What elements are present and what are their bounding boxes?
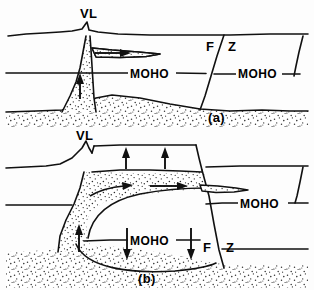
panel-a-asthenosphere xyxy=(6,95,308,127)
panel-a-fault-zone-2 xyxy=(294,36,303,76)
panel-b-vl-label: VL xyxy=(76,128,93,143)
panel-a-surface xyxy=(8,22,308,36)
panel-b-moho-right-label: MOHO xyxy=(240,197,279,211)
panel-b-surface xyxy=(6,141,308,168)
panel-b-moho-lower-label: MOHO xyxy=(130,234,169,248)
panel-a-moho-left-label: MOHO xyxy=(130,67,169,81)
panel-a-caption: (a) xyxy=(208,110,225,125)
panel-b-subsidence-arrow-right xyxy=(187,228,195,260)
panel-a-vl-label: VL xyxy=(80,6,97,21)
panel-b-fault-zone-2 xyxy=(295,167,303,203)
panel-a-fault-z-label: Z xyxy=(228,39,236,54)
panel-b-uplifted-block xyxy=(92,145,202,172)
figure-root: VL MOHO MOHO F Z (a) xyxy=(0,0,314,290)
panel-b-uplift-arrow-right xyxy=(161,147,169,169)
panel-a-fault-f-label: F xyxy=(206,39,214,54)
panel-b-asthenosphere xyxy=(6,246,308,288)
panel-b: VL MOHO MOHO F Z (b) xyxy=(6,128,308,288)
panel-a: VL MOHO MOHO F Z (a) xyxy=(6,6,308,127)
panel-b-caption: (b) xyxy=(138,271,156,286)
panel-b-fault-f-label: F xyxy=(203,240,211,255)
geology-cross-section-svg: VL MOHO MOHO F Z (a) xyxy=(0,0,314,290)
panel-a-magma-conduit xyxy=(62,36,96,112)
panel-a-moho-right-label: MOHO xyxy=(238,67,277,81)
panel-b-uplift-arrow-left xyxy=(122,147,130,169)
panel-b-fault-z-label: Z xyxy=(226,240,234,255)
panel-b-sill-intrusion xyxy=(200,185,248,193)
